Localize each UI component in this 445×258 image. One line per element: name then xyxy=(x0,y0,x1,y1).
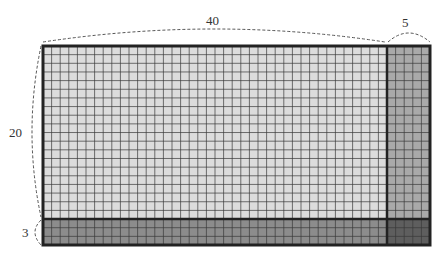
area-model-diagram xyxy=(0,0,445,258)
label-left-3: 3 xyxy=(22,226,29,239)
label-left-20: 20 xyxy=(9,126,22,139)
brace-left-3 xyxy=(35,220,41,245)
label-top-5: 5 xyxy=(402,16,409,29)
label-top-40: 40 xyxy=(206,14,219,27)
brace-left-20 xyxy=(32,46,41,217)
brace-top-5 xyxy=(388,33,430,42)
brace-top-40 xyxy=(43,29,385,42)
region-5x3 xyxy=(387,219,430,245)
